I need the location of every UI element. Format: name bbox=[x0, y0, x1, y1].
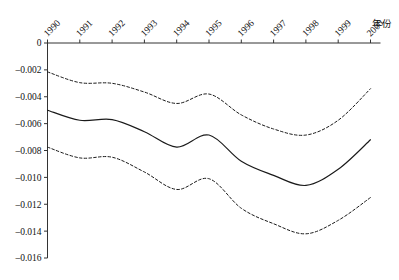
y-axis-tick-label: –0.016 bbox=[14, 253, 41, 263]
y-axis-tick-label: –0.014 bbox=[14, 227, 41, 237]
chart-container: 0–0.002–0.004–0.006–0.008–0.010–0.012–0.… bbox=[0, 0, 399, 280]
y-axis-tick-label: –0.006 bbox=[14, 119, 41, 129]
x-axis-title: 年份 bbox=[372, 18, 392, 29]
y-axis-tick-label: –0.008 bbox=[14, 146, 41, 156]
y-axis-tick-label: –0.004 bbox=[14, 92, 41, 102]
y-axis-tick-label: –0.010 bbox=[14, 173, 41, 183]
y-axis-tick-label: 0 bbox=[37, 38, 42, 48]
y-axis-tick-label: –0.012 bbox=[14, 200, 41, 210]
line-chart: 0–0.002–0.004–0.006–0.008–0.010–0.012–0.… bbox=[0, 0, 399, 280]
chart-background bbox=[0, 0, 399, 280]
y-axis-tick-label: –0.002 bbox=[14, 65, 41, 75]
